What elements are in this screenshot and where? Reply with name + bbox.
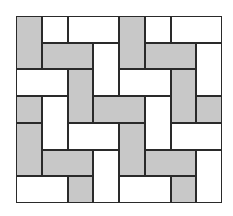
white-tile (42, 96, 68, 149)
gray-tile (68, 176, 94, 203)
gray-tile (119, 123, 145, 176)
gray-tile (16, 96, 42, 123)
white-tile (68, 123, 120, 150)
tiling-board (16, 16, 222, 203)
white-tile (16, 69, 68, 96)
white-tile (145, 96, 171, 149)
white-tile (119, 176, 171, 203)
gray-tile (145, 150, 197, 177)
white-tile (119, 69, 171, 96)
gray-tile (171, 69, 197, 122)
white-tile (42, 16, 68, 43)
gray-tile (196, 96, 222, 123)
gray-tile (171, 176, 197, 203)
white-tile (171, 16, 223, 43)
white-tile (16, 176, 68, 203)
gray-tile (16, 16, 42, 69)
white-tile (93, 150, 119, 203)
gray-tile (145, 43, 197, 70)
white-tile (68, 16, 120, 43)
gray-tile (119, 16, 145, 69)
white-tile (93, 43, 119, 96)
gray-tile (42, 150, 94, 177)
gray-tile (93, 96, 145, 123)
white-tile (196, 150, 222, 203)
gray-tile (42, 43, 94, 70)
white-tile (145, 16, 171, 43)
white-tile (171, 123, 223, 150)
gray-tile (16, 123, 42, 176)
white-tile (196, 43, 222, 96)
gray-tile (68, 69, 94, 122)
